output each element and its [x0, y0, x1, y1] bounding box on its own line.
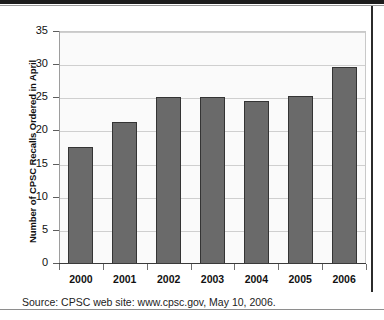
x-axis-label-2004: 2004 [234, 273, 278, 285]
bar-2001[interactable] [112, 122, 137, 264]
y-axis-tick [53, 64, 59, 65]
plot-area [59, 31, 366, 263]
x-axis-label-2001: 2001 [103, 273, 147, 285]
y-axis-tick-label: 25 [0, 91, 48, 102]
y-axis-tick [53, 31, 59, 32]
page-right-rule [371, 6, 373, 292]
bar-2005[interactable] [288, 96, 313, 264]
x-axis-label-2000: 2000 [59, 273, 103, 285]
y-axis-tick-label: 30 [0, 58, 48, 69]
x-axis-tick [234, 264, 235, 270]
y-axis-tick-label: 20 [0, 124, 48, 135]
x-axis-tick [147, 264, 148, 270]
y-axis-tick-label: 15 [0, 158, 48, 169]
bar-chart-figure: Number of CPSC Recalls Ordered in April … [0, 6, 371, 309]
bar-2006[interactable] [332, 67, 357, 264]
x-axis-tick [103, 264, 104, 270]
y-axis-line [59, 31, 60, 264]
page-bottom-rule [0, 309, 384, 310]
x-axis-tick [366, 264, 367, 270]
gridline [59, 32, 365, 33]
bar-2002[interactable] [156, 97, 181, 264]
y-axis-tick [53, 230, 59, 231]
x-axis-tick [191, 264, 192, 270]
x-axis-tick [59, 264, 60, 270]
y-axis-tick [53, 97, 59, 98]
bar-2000[interactable] [68, 147, 93, 264]
y-axis-tick-label: 0 [0, 257, 48, 268]
bar-2004[interactable] [244, 101, 269, 264]
x-axis-label-2002: 2002 [147, 273, 191, 285]
gridline [59, 65, 365, 66]
x-axis-label-2003: 2003 [191, 273, 235, 285]
y-axis-tick-label: 10 [0, 191, 48, 202]
x-axis-label-2005: 2005 [278, 273, 322, 285]
x-axis-tick [322, 264, 323, 270]
bar-2003[interactable] [200, 97, 225, 264]
x-axis-tick [278, 264, 279, 270]
y-axis-tick [53, 164, 59, 165]
y-axis-tick [53, 130, 59, 131]
page-top-rule [0, 0, 384, 4]
x-axis-label-2006: 2006 [322, 273, 366, 285]
x-axis-line [59, 263, 366, 264]
source-caption: Source: CPSC web site: www.cpsc.gov, May… [22, 296, 276, 308]
y-axis-tick-label: 5 [0, 224, 48, 235]
y-axis-tick-label: 35 [0, 25, 48, 36]
y-axis-tick [53, 197, 59, 198]
